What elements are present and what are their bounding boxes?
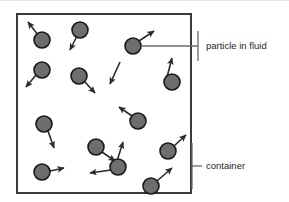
diagram-canvas: particle in fluidcontainer bbox=[0, 0, 289, 202]
particle bbox=[143, 178, 159, 194]
particle bbox=[130, 113, 146, 129]
particle-in-fluid-diagram: particle in fluidcontainer bbox=[0, 0, 289, 202]
particle bbox=[36, 116, 52, 132]
particle bbox=[34, 164, 50, 180]
particle bbox=[164, 74, 180, 90]
label-container: container bbox=[206, 160, 245, 171]
particle bbox=[110, 159, 126, 175]
particle bbox=[71, 68, 87, 84]
particle bbox=[88, 139, 104, 155]
particle bbox=[125, 38, 141, 54]
particle bbox=[34, 32, 50, 48]
particle bbox=[34, 62, 50, 78]
label-particle-in-fluid: particle in fluid bbox=[206, 40, 267, 51]
particle bbox=[160, 143, 176, 159]
particle bbox=[72, 22, 88, 38]
labels-group: particle in fluidcontainer bbox=[206, 40, 267, 171]
